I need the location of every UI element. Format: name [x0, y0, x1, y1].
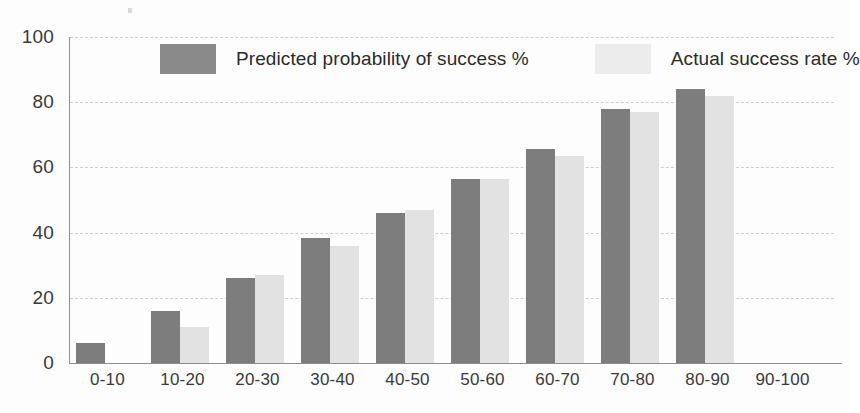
bar-groups [70, 37, 842, 363]
x-tick-label: 0-10 [70, 370, 145, 390]
x-axis-line [69, 363, 842, 364]
bar-actual [480, 179, 509, 363]
x-tick-label: 40-50 [370, 370, 445, 390]
y-tick-label-40: 40 [0, 222, 54, 244]
x-tick-label: 20-30 [220, 370, 295, 390]
bar-actual [255, 275, 284, 363]
bar-actual [330, 246, 359, 363]
bar-predicted [76, 343, 105, 363]
x-tick-label: 50-60 [445, 370, 520, 390]
bar-group [370, 37, 445, 363]
bar-group [520, 37, 595, 363]
bar-group [595, 37, 670, 363]
bar-group [445, 37, 520, 363]
bar-group [70, 37, 145, 363]
bar-predicted [226, 278, 255, 363]
y-tick-label-60: 60 [0, 156, 54, 178]
bar-predicted [301, 238, 330, 364]
y-axis-ticks: 100 80 60 40 20 0 [0, 0, 62, 413]
bar-predicted [451, 179, 480, 363]
y-tick-label-0: 0 [0, 352, 54, 374]
y-tick-label-20: 20 [0, 287, 54, 309]
bar-predicted [526, 149, 555, 363]
bar-actual [705, 96, 734, 363]
y-tick-label-100: 100 [0, 26, 54, 48]
x-tick-label: 10-20 [145, 370, 220, 390]
bar-actual [405, 210, 434, 363]
bar-predicted [151, 311, 180, 363]
bar-actual [180, 327, 209, 363]
x-tick-label: 90-100 [745, 370, 820, 390]
x-axis-ticks: 0-1010-2020-3030-4040-5050-6060-7070-808… [70, 370, 842, 404]
bar-predicted [601, 109, 630, 363]
bar-actual [630, 112, 659, 363]
scan-artifact [128, 8, 132, 13]
y-tick-label-80: 80 [0, 91, 54, 113]
bar-group [745, 37, 820, 363]
bar-actual [555, 156, 584, 363]
bar-predicted [376, 213, 405, 363]
bar-group [220, 37, 295, 363]
bar-group [670, 37, 745, 363]
bar-group [295, 37, 370, 363]
x-tick-label: 30-40 [295, 370, 370, 390]
x-tick-label: 60-70 [520, 370, 595, 390]
bar-predicted [676, 89, 705, 363]
x-tick-label: 80-90 [670, 370, 745, 390]
x-tick-label: 70-80 [595, 370, 670, 390]
bar-group [145, 37, 220, 363]
